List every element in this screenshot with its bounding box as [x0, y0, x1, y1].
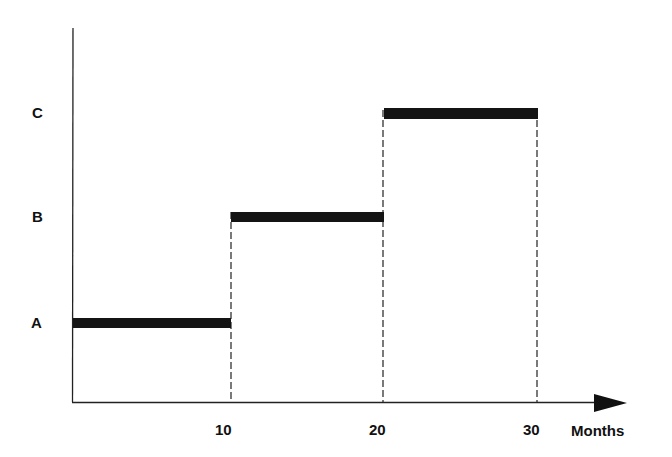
x-axis-arrow-icon — [594, 394, 627, 412]
step-chart: C B A 10 20 30 Months — [0, 0, 672, 457]
y-label-c: C — [32, 104, 43, 121]
level-b-bar — [231, 212, 384, 222]
y-label-b: B — [32, 208, 43, 225]
x-tick-10: 10 — [215, 421, 232, 438]
x-tick-30: 30 — [523, 421, 540, 438]
y-axis — [73, 28, 74, 402]
level-c-bar — [384, 108, 538, 119]
y-label-a: A — [31, 314, 42, 331]
x-tick-20: 20 — [369, 421, 386, 438]
x-axis-title: Months — [571, 422, 624, 439]
level-a-bar — [73, 318, 231, 328]
